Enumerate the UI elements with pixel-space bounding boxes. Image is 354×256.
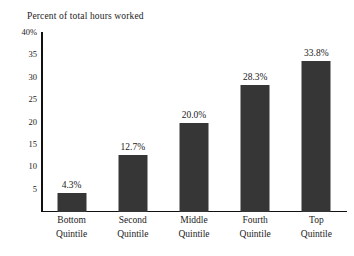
bar-value-label: 4.3% bbox=[62, 180, 82, 190]
category-label-line: Quintile bbox=[102, 228, 164, 242]
category-label: BottomQuintile bbox=[41, 214, 103, 241]
bar-group: 12.7% bbox=[102, 32, 164, 212]
category-label-line: Quintile bbox=[224, 228, 286, 242]
category-label-line: Quintile bbox=[163, 228, 225, 242]
category-label-line: Bottom bbox=[41, 214, 103, 228]
bar-value-label: 12.7% bbox=[121, 142, 146, 152]
y-tick-label: 40% bbox=[21, 27, 37, 37]
bar bbox=[302, 61, 331, 212]
plot-area: 4.3%12.7%20.0%28.3%33.8% bbox=[41, 32, 347, 212]
y-axis-tick-labels: 40%3530252015105 bbox=[0, 0, 37, 256]
bar bbox=[241, 85, 270, 212]
y-tick-label: 10 bbox=[29, 161, 38, 171]
bar-group: 20.0% bbox=[163, 32, 225, 212]
category-label: FourthQuintile bbox=[224, 214, 286, 241]
category-label: SecondQuintile bbox=[102, 214, 164, 241]
category-label: MiddleQuintile bbox=[163, 214, 225, 241]
y-tick-label: 15 bbox=[29, 139, 38, 149]
bar-value-label: 28.3% bbox=[243, 72, 268, 82]
bar bbox=[57, 193, 86, 212]
y-tick-label: 20 bbox=[29, 117, 38, 127]
bar-value-label: 20.0% bbox=[182, 110, 207, 120]
category-label: TopQuintile bbox=[285, 214, 347, 241]
bar bbox=[118, 155, 147, 212]
category-label-line: Quintile bbox=[41, 228, 103, 242]
bar-chart-figure: Percent of total hours worked 40%3530252… bbox=[0, 0, 354, 256]
category-label-line: Fourth bbox=[224, 214, 286, 228]
category-label-line: Quintile bbox=[285, 228, 347, 242]
y-tick-label: 30 bbox=[29, 72, 38, 82]
y-tick-label: 5 bbox=[33, 184, 37, 194]
y-tick-label: 25 bbox=[29, 94, 38, 104]
x-axis-category-labels: BottomQuintileSecondQuintileMiddleQuinti… bbox=[41, 214, 347, 248]
chart-title: Percent of total hours worked bbox=[27, 11, 144, 21]
source-note bbox=[52, 249, 332, 256]
y-tick-label: 35 bbox=[29, 49, 38, 59]
bar bbox=[180, 123, 209, 213]
category-label-line: Second bbox=[102, 214, 164, 228]
bar-group: 4.3% bbox=[41, 32, 103, 212]
bar-group: 28.3% bbox=[224, 32, 286, 212]
category-label-line: Top bbox=[285, 214, 347, 228]
category-label-line: Middle bbox=[163, 214, 225, 228]
bar-value-label: 33.8% bbox=[304, 48, 329, 58]
bar-group: 33.8% bbox=[285, 32, 347, 212]
